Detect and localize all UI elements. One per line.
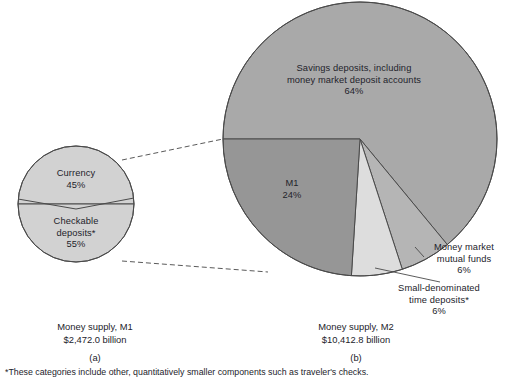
caption-panel-a-title: Money supply, M1 [10,320,180,333]
slice-label-currency-text: Currency [57,168,96,178]
footnote-text: *These categories include other, quantit… [5,367,505,378]
slice-label-savings-deposits-percent: 64% [345,86,364,96]
caption-panel-b: Money supply, M2 $10,412.8 billion (b) [268,320,444,365]
connector-line-bottom [122,261,268,272]
slice-label-small-denominated-time-deposits-line2: time deposits* [409,295,469,305]
slice-label-money-market-mutual-funds-line1: Money market [434,242,494,252]
slice-label-m1-percent: 24% [283,190,302,200]
slice-label-small-denominated-time-deposits-percent: 6% [432,306,446,316]
connector-line-top [122,139,223,160]
caption-panel-a: Money supply, M1 $2,472.0 billion (a) [10,320,180,365]
caption-panel-b-letter: (b) [268,351,444,364]
slice-label-money-market-mutual-funds-percent: 6% [457,265,471,275]
slice-label-currency: Currency 45% [30,168,122,191]
money-supply-pie-figure: Currency 45% Checkable deposits* 55% Sav… [0,0,513,386]
slice-label-m1: M1 24% [264,178,320,201]
slice-label-checkable-deposits-percent: 55% [67,239,86,249]
caption-panel-b-value: $10,412.8 billion [268,333,444,346]
slice-label-money-market-mutual-funds-line2: mutual funds [437,254,491,264]
caption-panel-a-value: $2,472.0 billion [10,333,180,346]
slice-label-currency-percent: 45% [67,180,86,190]
slice-label-savings-deposits: Savings deposits, including money market… [258,63,450,98]
slice-label-money-market-mutual-funds: Money market mutual funds 6% [418,242,510,277]
slice-label-small-denominated-time-deposits-line1: Small-denominated [398,283,480,293]
slice-label-m1-text: M1 [285,178,298,188]
caption-panel-b-title: Money supply, M2 [268,320,444,333]
slice-label-checkable-deposits-line2: deposits* [56,228,95,238]
pie-slice-m1[interactable] [223,139,360,276]
slice-label-small-denominated-time-deposits: Small-denominated time deposits* 6% [378,283,500,318]
slice-label-savings-deposits-line2: money market deposit accounts [287,75,421,85]
slice-label-savings-deposits-line1: Savings deposits, including [297,63,412,73]
right-pie-m2 [223,2,497,276]
slice-label-checkable-deposits: Checkable deposits* 55% [30,216,122,251]
caption-panel-a-letter: (a) [10,351,180,364]
slice-label-checkable-deposits-line1: Checkable [54,216,99,226]
